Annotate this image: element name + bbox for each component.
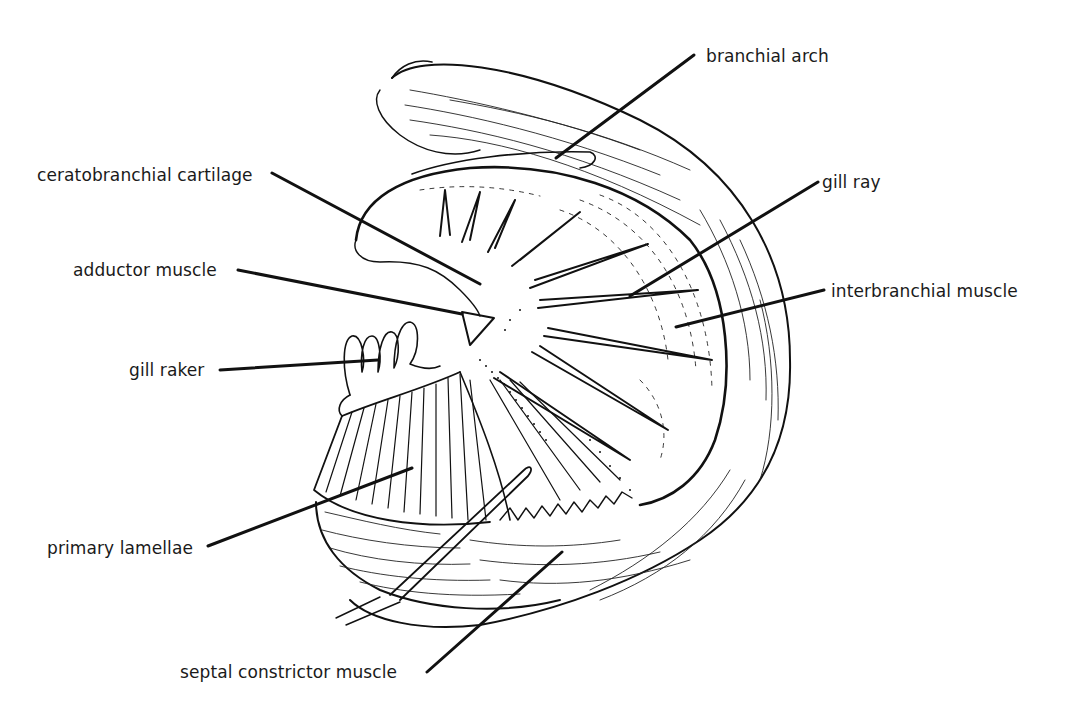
label-branchial-arch: branchial arch: [706, 46, 829, 66]
lamellae-fan: [314, 372, 632, 525]
label-gill-ray: gill ray: [822, 172, 881, 192]
probe: [336, 467, 531, 625]
leader-lines: [208, 55, 824, 672]
lower-lobe: [316, 502, 690, 609]
label-septal-constrictor-muscle: septal constrictor muscle: [180, 662, 397, 682]
adductor-notch: [462, 312, 494, 345]
label-interbranchial-muscle: interbranchial muscle: [831, 281, 1018, 301]
label-adductor-muscle: adductor muscle: [73, 260, 217, 280]
gill-raker-shape: [339, 322, 440, 416]
label-primary-lamellae: primary lamellae: [47, 538, 193, 558]
gill-anatomy-figure: branchial arch ceratobranchial cartilage…: [0, 0, 1074, 726]
arch-body: [355, 152, 726, 505]
gill-rays: [440, 190, 712, 460]
label-gill-raker: gill raker: [129, 360, 204, 380]
label-ceratobranchial-cartilage: ceratobranchial cartilage: [37, 165, 253, 185]
